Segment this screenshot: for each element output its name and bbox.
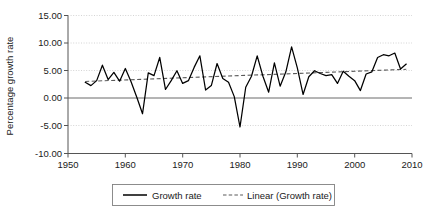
growth-rate-line-chart: Percentage growth rate 15.00 10.00 5.00 …	[0, 0, 427, 216]
x-tick-label-2010: 2010	[401, 159, 422, 170]
x-tick-label-2000: 2000	[344, 159, 365, 170]
gridlines	[68, 16, 412, 126]
x-axis-tick-labels: 1950 1960 1970 1980 1990 2000 2010	[57, 159, 422, 170]
x-tick-label-1990: 1990	[287, 159, 308, 170]
y-axis-title: Percentage growth rate	[4, 37, 15, 136]
y-tick-label-neg10: -10.00	[35, 148, 62, 159]
y-tick-label-neg5: -5.00	[40, 120, 62, 131]
y-axis-tick-labels: 15.00 10.00 5.00 0.00 -5.00 -10.00	[35, 10, 62, 159]
x-axis-ticks	[68, 154, 412, 158]
y-tick-label-5: 5.00	[44, 65, 63, 76]
growth-rate-series-line	[85, 47, 406, 127]
x-tick-label-1950: 1950	[57, 159, 78, 170]
x-tick-label-1970: 1970	[172, 159, 193, 170]
y-axis-ticks	[64, 16, 68, 154]
legend-label-growth-rate: Growth rate	[152, 190, 202, 201]
legend-label-linear-trend: Linear (Growth rate)	[247, 190, 332, 201]
x-tick-label-1980: 1980	[229, 159, 250, 170]
chart-legend: Growth rate Linear (Growth rate)	[113, 185, 335, 206]
chart-figure: Percentage growth rate 15.00 10.00 5.00 …	[0, 0, 427, 216]
y-tick-label-10: 10.00	[38, 37, 62, 48]
y-tick-label-0: 0.00	[44, 92, 63, 103]
y-tick-label-15: 15.00	[38, 10, 62, 21]
linear-trend-line	[85, 69, 406, 81]
x-tick-label-1960: 1960	[115, 159, 136, 170]
